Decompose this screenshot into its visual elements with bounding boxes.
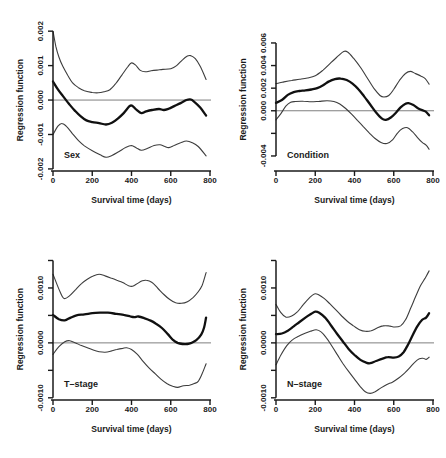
- x-tick-label: 800: [203, 405, 217, 414]
- y-tick-label: 0.0000: [36, 330, 45, 355]
- x-axis-title: Survival time (days): [314, 195, 394, 205]
- x-tick-label: 800: [426, 405, 440, 414]
- upper-confidence-band-curve: [53, 273, 206, 304]
- y-axis-title: Regression function: [15, 288, 25, 370]
- y-tick-label: 0.0010: [36, 275, 45, 300]
- x-tick-label: 600: [164, 176, 178, 185]
- x-tick-label: 0: [274, 405, 279, 414]
- y-axis-title: Regression function: [238, 288, 248, 370]
- y-tick-label: 0.004: [259, 55, 268, 76]
- x-tick-label: 400: [125, 405, 139, 414]
- x-axis-title: Survival time (days): [314, 424, 394, 434]
- panel-label: N–stage: [287, 379, 322, 389]
- x-tick-label: 200: [86, 405, 100, 414]
- y-tick-label: -0.002: [36, 157, 45, 180]
- lower-confidence-band-curve: [276, 101, 429, 149]
- x-tick-label: 0: [51, 176, 56, 185]
- y-tick-label: 0.002: [259, 78, 268, 99]
- regression-function-figure: 0.0020.0010.000-0.001-0.0020200400600800…: [0, 0, 446, 458]
- x-tick-label: 200: [309, 405, 323, 414]
- panel-label: Condition: [287, 150, 329, 160]
- y-tick-label: -0.001: [36, 123, 45, 146]
- regression-estimate-curve: [53, 313, 206, 345]
- panel-n-stage: 0.00100.0000-0.00100200400600800Regressi…: [223, 229, 446, 458]
- x-axis-title: Survival time (days): [91, 424, 171, 434]
- y-tick-label: -0.004: [259, 144, 268, 167]
- panel-label: T–stage: [64, 379, 98, 389]
- x-tick-label: 200: [86, 176, 100, 185]
- y-tick-label: -0.0010: [36, 384, 45, 412]
- x-tick-label: 600: [387, 405, 401, 414]
- x-tick-label: 0: [274, 176, 279, 185]
- panel-t-stage: 0.00100.0000-0.00100200400600800Regressi…: [0, 229, 223, 458]
- x-tick-label: 400: [348, 176, 362, 185]
- regression-estimate-curve: [53, 82, 206, 125]
- panel-sex: 0.0020.0010.000-0.001-0.0020200400600800…: [0, 0, 223, 229]
- t-stage-plot: 0.00100.0000-0.00100200400600800Regressi…: [0, 229, 223, 458]
- upper-confidence-band-curve: [53, 31, 206, 93]
- x-tick-label: 200: [309, 176, 323, 185]
- x-tick-label: 400: [125, 176, 139, 185]
- y-tick-label: 0.000: [36, 89, 45, 110]
- y-tick-label: 0.002: [36, 21, 45, 42]
- y-tick-label: 0.0000: [259, 330, 268, 355]
- x-tick-label: 800: [203, 176, 217, 185]
- y-tick-label: 0.001: [36, 55, 45, 76]
- y-tick-label: 0.006: [259, 32, 268, 53]
- x-tick-label: 600: [387, 176, 401, 185]
- panel-label: Sex: [64, 150, 80, 160]
- y-tick-label: 0.000: [259, 100, 268, 121]
- condition-plot: 0.0060.0040.0020.000-0.0040200400600800R…: [223, 0, 446, 229]
- sex-plot: 0.0020.0010.000-0.001-0.0020200400600800…: [0, 0, 223, 229]
- regression-estimate-curve: [276, 79, 429, 120]
- y-axis-title: Regression function: [15, 59, 25, 141]
- n-stage-plot: 0.00100.0000-0.00100200400600800Regressi…: [223, 229, 446, 458]
- y-tick-label: 0.0010: [259, 275, 268, 300]
- x-tick-label: 600: [164, 405, 178, 414]
- x-tick-label: 800: [426, 176, 440, 185]
- x-tick-label: 0: [51, 405, 56, 414]
- panel-condition: 0.0060.0040.0020.000-0.0040200400600800R…: [223, 0, 446, 229]
- y-tick-label: -0.0010: [259, 384, 268, 412]
- x-tick-label: 400: [348, 405, 362, 414]
- y-axis-title: Regression function: [238, 58, 248, 140]
- x-axis-title: Survival time (days): [91, 195, 171, 205]
